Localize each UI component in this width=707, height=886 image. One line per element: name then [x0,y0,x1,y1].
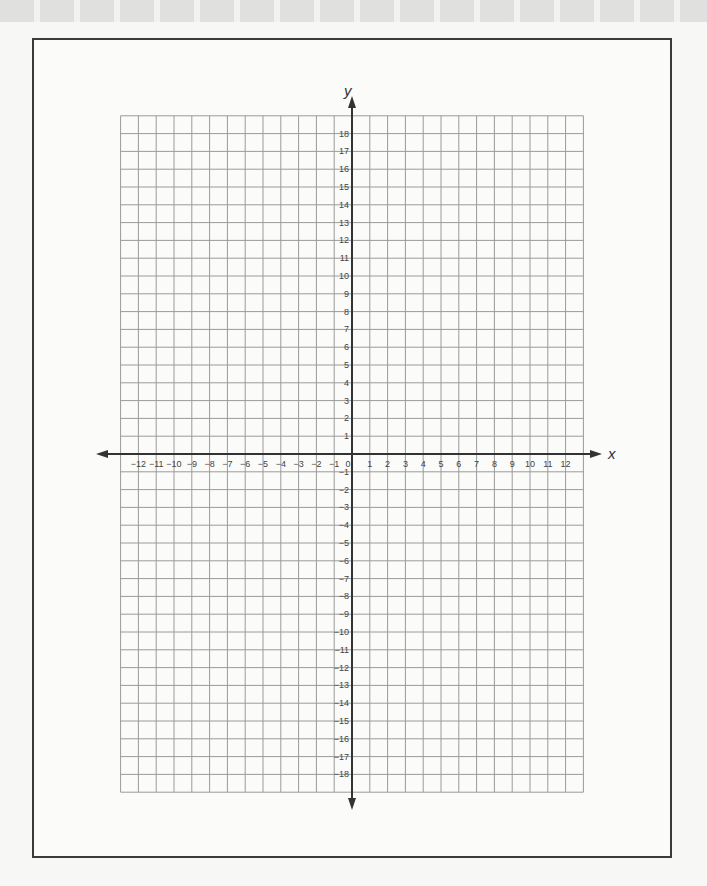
x-tick-label: −3 [293,459,303,469]
y-tick-label: 2 [344,413,349,423]
y-tick-label: −13 [334,680,349,690]
x-tick-label: 1 [367,459,372,469]
y-tick-label: −12 [334,663,349,673]
y-tick-label: 8 [344,307,349,317]
y-tick-label: −7 [339,574,349,584]
y-tick-label: 3 [344,396,349,406]
y-tick-label: 10 [339,271,349,281]
y-tick-label: −8 [339,591,349,601]
x-tick-label: −12 [131,459,146,469]
y-tick-label: 16 [339,164,349,174]
y-tick-label: −17 [334,752,349,762]
x-tick-label: −8 [204,459,214,469]
x-tick-label: −2 [311,459,321,469]
y-tick-label: 11 [340,253,349,263]
x-tick-label: 10 [525,459,535,469]
x-tick-label: −5 [258,459,268,469]
x-tick-label: 7 [474,459,479,469]
y-axis-down-arrow-icon [348,798,356,810]
x-tick-label: 4 [421,459,426,469]
y-tick-label: −15 [334,716,349,726]
x-tick-label: −11 [149,459,164,469]
x-tick-label: 8 [492,459,497,469]
y-tick-label: 9 [344,289,349,299]
x-tick-label: −10 [166,459,181,469]
y-tick-label: 14 [339,200,349,210]
y-tick-label: −10 [334,627,349,637]
y-tick-label: 12 [339,235,349,245]
x-tick-label: 5 [438,459,443,469]
y-tick-label: −5 [339,538,349,548]
y-tick-label: 13 [339,218,349,228]
x-tick-label: −7 [222,459,232,469]
y-tick-label: −14 [334,698,349,708]
y-tick-label: 15 [339,182,349,192]
y-tick-label: 4 [344,378,349,388]
y-tick-label: 7 [344,324,349,334]
coordinate-plane: x y −12−11−10−9−8−7−6−5−4−3−2−1012345678… [0,0,707,886]
x-tick-label: 12 [561,459,571,469]
y-tick-label: −2 [339,485,349,495]
x-tick-label: −4 [276,459,286,469]
x-tick-label: −6 [240,459,250,469]
x-axis-left-arrow-icon [96,450,108,458]
x-tick-label: 2 [385,459,390,469]
y-tick-label: 6 [344,342,349,352]
x-tick-label: −9 [187,459,197,469]
y-tick-label: −9 [339,609,349,619]
y-tick-label: −1 [339,467,349,477]
y-tick-label: 1 [344,431,349,441]
y-tick-label: 18 [339,129,349,139]
y-tick-label: 17 [339,146,349,156]
x-tick-label: 3 [403,459,408,469]
y-tick-label: −18 [334,769,349,779]
x-axis-name: x [607,445,616,462]
y-axis-name: y [343,82,353,99]
y-tick-label: −3 [339,502,349,512]
x-tick-label: 9 [510,459,515,469]
x-tick-label: 6 [456,459,461,469]
y-tick-label: 5 [344,360,349,370]
y-tick-label: −11 [334,645,349,655]
x-tick-labels: −12−11−10−9−8−7−6−5−4−3−2−10123456789101… [131,459,571,469]
x-axis-right-arrow-icon [590,450,602,458]
y-tick-label: −16 [334,734,349,744]
y-tick-label: −4 [339,520,349,530]
y-tick-label: −6 [339,556,349,566]
x-tick-label: 11 [543,459,552,469]
